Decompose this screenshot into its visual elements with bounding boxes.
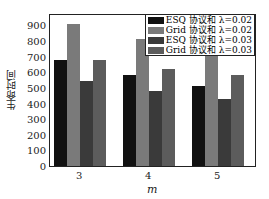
bar: [136, 39, 149, 166]
bar: [149, 91, 162, 166]
y-tick-label: 0: [18, 161, 46, 172]
y-axis-label: 生命时间: [4, 70, 19, 110]
y-tick-label: 400: [18, 99, 46, 110]
legend: ESQ 协议和 λ=0.02Grid 协议和 λ=0.02ESQ 协议和 λ=0…: [145, 14, 255, 56]
y-tick-label: 300: [18, 114, 46, 125]
bar: [123, 75, 136, 166]
legend-label: Grid 协议和 λ=0.02: [166, 25, 252, 35]
legend-item: Grid 协议和 λ=0.03: [148, 45, 252, 55]
y-tick-label: 800: [18, 36, 46, 47]
bar-chart: 生命时间 0100200300400500600700800900 345 m …: [0, 0, 269, 199]
legend-label: ESQ 协议和 λ=0.02: [166, 15, 252, 25]
bar: [218, 99, 231, 166]
y-tick-label: 600: [18, 67, 46, 78]
y-tick-label: 100: [18, 145, 46, 156]
y-tick-label: 900: [18, 20, 46, 31]
bar: [162, 69, 175, 166]
x-tick-label: 3: [76, 170, 82, 181]
bar: [67, 24, 80, 166]
bar: [231, 75, 244, 166]
legend-swatch-icon: [148, 37, 164, 44]
x-tick-label: 5: [214, 170, 220, 181]
legend-swatch-icon: [148, 47, 164, 54]
bar: [205, 54, 218, 166]
bar: [54, 60, 67, 166]
legend-item: Grid 协议和 λ=0.02: [148, 25, 252, 35]
y-tick-label: 200: [18, 130, 46, 141]
bar: [192, 86, 205, 166]
x-axis-label: m: [147, 183, 157, 196]
legend-item: ESQ 协议和 λ=0.03: [148, 35, 252, 45]
legend-label: ESQ 协议和 λ=0.03: [166, 35, 252, 45]
legend-item: ESQ 协议和 λ=0.02: [148, 15, 252, 25]
x-tick-label: 4: [145, 170, 151, 181]
legend-swatch-icon: [148, 17, 164, 24]
legend-swatch-icon: [148, 27, 164, 34]
y-tick-label: 700: [18, 52, 46, 63]
y-tick-label: 500: [18, 83, 46, 94]
bar: [93, 60, 106, 166]
bar: [80, 81, 93, 166]
legend-label: Grid 协议和 λ=0.03: [166, 45, 252, 55]
